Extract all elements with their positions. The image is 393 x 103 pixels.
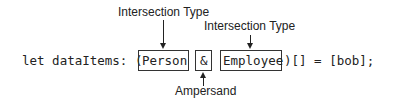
ampersand-operator: & (200, 53, 208, 68)
person-type: Person (142, 53, 187, 68)
code-suffix: )[] = [bob]; (284, 53, 374, 68)
code-prefix: let dataItems: ( (22, 53, 142, 68)
intersection-type-label-person: Intersection Type (118, 5, 209, 19)
ampersand-label: Ampersand (175, 84, 236, 98)
employee-type: Employee (223, 53, 283, 68)
intersection-type-label-employee: Intersection Type (204, 19, 295, 33)
